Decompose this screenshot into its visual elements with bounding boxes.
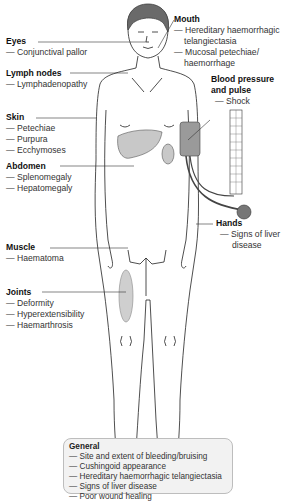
bp-heading-1: Blood pressure — [211, 74, 274, 85]
liver — [118, 130, 162, 158]
general-item: — Poor wound healing — [69, 492, 227, 502]
joints-heading: Joints — [6, 287, 84, 298]
label-blood-pressure: Blood pressure and pulse — Shock — [211, 74, 274, 107]
joints-item: — Hyperextensibility — [6, 309, 84, 320]
spleen — [162, 144, 174, 164]
label-muscle: Muscle — Haematoma — [6, 242, 64, 264]
lymph-heading: Lymph nodes — [6, 68, 87, 79]
label-joints: Joints — Deformity — Hyperextensibility … — [6, 287, 84, 331]
bulb — [237, 205, 251, 219]
label-mouth: Mouth — Hereditary haemorrhagic telangie… — [174, 14, 280, 69]
hands-heading: Hands — [216, 218, 280, 229]
abdomen-item: — Splenomegaly — [6, 172, 72, 183]
label-lymph-nodes: Lymph nodes — Lymphadenopathy — [6, 68, 87, 90]
label-abdomen: Abdomen — Splenomegaly — Hepatomegaly — [6, 161, 72, 194]
label-eyes: Eyes — Conjunctival pallor — [6, 36, 87, 58]
joints-item: — Deformity — [6, 298, 84, 309]
skin-item: — Ecchymoses — [6, 145, 66, 156]
muscle-item: — Haematoma — [6, 253, 64, 264]
eyes-item: — Conjunctival pallor — [6, 47, 87, 58]
general-box: General — Site and extent of bleeding/br… — [63, 438, 233, 494]
hands-item: — Signs of liver — [216, 229, 280, 240]
general-heading: General — [69, 442, 227, 452]
mouth-item-cont: haemorrhage — [174, 58, 280, 69]
general-item: — Cushingoid appearance — [69, 462, 227, 472]
general-item: — Hereditary haemorrhagic telangiectasia — [69, 472, 227, 482]
general-item: — Site and extent of bleeding/bruising — [69, 452, 227, 462]
mouth-item: — Mucosal petechiae/ — [174, 47, 280, 58]
bp-heading-2: and pulse — [211, 85, 274, 96]
eyes-heading: Eyes — [6, 36, 87, 47]
abdomen-heading: Abdomen — [6, 161, 72, 172]
joints-item: — Haemarthrosis — [6, 320, 84, 331]
bp-item: — Shock — [211, 96, 274, 107]
hands-item-cont: disease — [216, 240, 280, 251]
mouth-item: — Hereditary haemorrhagic — [174, 25, 280, 36]
muscle-haematoma — [119, 270, 133, 322]
label-skin: Skin — Petechiae — Purpura — Ecchymoses — [6, 112, 66, 156]
bp-cuff — [180, 122, 200, 156]
skin-heading: Skin — [6, 112, 66, 123]
abdomen-item: — Hepatomegaly — [6, 183, 72, 194]
skin-item: — Petechiae — [6, 123, 66, 134]
skin-item: — Purpura — [6, 134, 66, 145]
lymph-item: — Lymphadenopathy — [6, 79, 87, 90]
label-hands: Hands — Signs of liver disease — [216, 218, 280, 251]
general-item: — Signs of liver disease — [69, 482, 227, 492]
mouth-heading: Mouth — [174, 14, 280, 25]
mouth-item-cont: telangiectasia — [174, 36, 280, 47]
muscle-heading: Muscle — [6, 242, 64, 253]
